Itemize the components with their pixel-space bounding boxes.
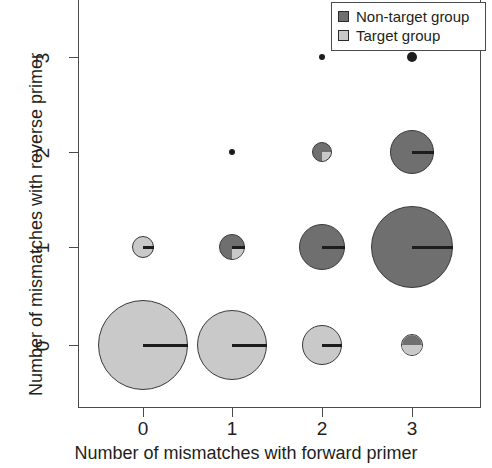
sunflower-ray-x3-y1 xyxy=(412,246,453,249)
y-tick-1 xyxy=(69,247,78,248)
data-point-x2-y2 xyxy=(312,142,332,162)
sunflower-ray-x2-y1 xyxy=(322,246,345,249)
legend-label-target: Target group xyxy=(356,27,440,44)
sunflower-ray-x1-y0 xyxy=(232,344,267,347)
legend: Non-target group Target group xyxy=(331,2,486,51)
x-tick-1 xyxy=(232,408,233,417)
legend-swatch-target xyxy=(338,30,349,41)
x-tick-0 xyxy=(143,408,144,417)
mark-half-target xyxy=(402,345,422,355)
sunflower-ray-x0-y0 xyxy=(143,344,188,347)
y-tick-3 xyxy=(69,57,78,58)
legend-item-target-group: Target group xyxy=(338,26,479,45)
sunflower-ray-x2-y0 xyxy=(322,344,342,347)
sunflower-ray-x3-y2 xyxy=(412,151,434,154)
y-axis-title: Number of mismatches with reverse primer xyxy=(26,53,47,396)
x-tick-2 xyxy=(322,408,323,417)
sunflower-ray-x1-y1 xyxy=(232,246,245,249)
x-tick-label-1: 1 xyxy=(212,418,252,440)
x-axis-title: Number of mismatches with forward primer xyxy=(0,443,492,464)
data-point-x1-y2 xyxy=(229,149,235,155)
y-tick-0 xyxy=(69,345,78,346)
legend-item-non-target-group: Non-target group xyxy=(338,7,479,26)
x-tick-label-3: 3 xyxy=(392,418,432,440)
data-point-x2-y3 xyxy=(319,54,325,60)
x-tick-label-0: 0 xyxy=(123,418,163,440)
x-tick-label-2: 2 xyxy=(302,418,342,440)
sunflower-ray-x0-y1 xyxy=(143,246,154,249)
sunflower-scatter-figure: 0 1 2 3 0 1 2 3 xyxy=(0,0,492,468)
legend-swatch-non-target xyxy=(338,11,349,22)
mark-half-nontarget xyxy=(402,335,422,345)
data-point-x3-y0 xyxy=(401,334,423,356)
mark-wedge-target xyxy=(232,247,244,259)
mark-wedge-target xyxy=(322,152,331,161)
legend-label-non-target: Non-target group xyxy=(356,8,469,25)
y-tick-2 xyxy=(69,152,78,153)
data-point-x3-y3 xyxy=(407,52,417,62)
x-tick-3 xyxy=(412,408,413,417)
